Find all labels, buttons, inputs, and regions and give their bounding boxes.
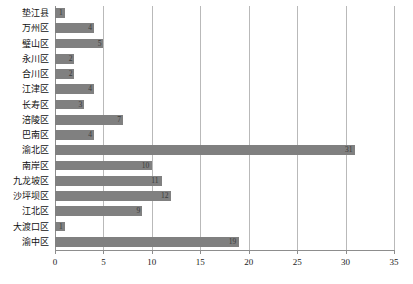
- bar: [55, 176, 162, 186]
- tick-label-30: 30: [341, 256, 350, 268]
- bar-value-label: 9: [137, 205, 141, 216]
- bar: [55, 206, 142, 216]
- category-label: 长寿区: [22, 100, 49, 111]
- category-label-row: 巴南区: [0, 128, 52, 143]
- bar-row: 31: [55, 143, 394, 158]
- bar: [55, 39, 103, 49]
- tick-label-0: 0: [53, 256, 58, 268]
- category-label-row: 大渡口区: [0, 220, 52, 235]
- tick-mark-0: [55, 250, 56, 254]
- category-label: 九龙坡区: [13, 176, 49, 187]
- category-axis-labels: 垫江县万州区璧山区永川区合川区江津区长寿区涪陵区巴南区渝北区南岸区九龙坡区沙坪坝…: [0, 6, 52, 250]
- tick-mark-20: [249, 250, 250, 254]
- category-label: 璧山区: [22, 39, 49, 50]
- tick-mark-15: [200, 250, 201, 254]
- bar-value-label: 11: [151, 175, 158, 186]
- category-label-row: 万州区: [0, 21, 52, 36]
- category-label-row: 江津区: [0, 82, 52, 97]
- tick-mark-5: [103, 250, 104, 254]
- category-label: 江北区: [22, 206, 49, 217]
- gridline-35: [394, 6, 395, 250]
- tick-label-5: 5: [101, 256, 106, 268]
- category-label: 万州区: [22, 23, 49, 34]
- bar-rows: 145224374311011129119: [55, 6, 394, 250]
- tick-label-20: 20: [244, 256, 253, 268]
- bar-row: 19: [55, 235, 394, 250]
- bar: [55, 191, 171, 201]
- category-label: 渝中区: [22, 237, 49, 248]
- category-label-row: 长寿区: [0, 98, 52, 113]
- bar-row: 1: [55, 6, 394, 21]
- category-label: 合川区: [22, 69, 49, 80]
- category-label: 江津区: [22, 84, 49, 95]
- bar-row: 7: [55, 113, 394, 128]
- category-label: 南岸区: [22, 161, 49, 172]
- category-label-row: 九龙坡区: [0, 174, 52, 189]
- bar: [55, 161, 152, 171]
- category-label: 涪陵区: [22, 115, 49, 126]
- bar-value-label: 1: [59, 7, 63, 18]
- bar-value-label: 4: [88, 83, 92, 94]
- bar-value-label: 10: [142, 160, 150, 171]
- bar-value-label: 12: [161, 190, 169, 201]
- tick-mark-30: [346, 250, 347, 254]
- tick-mark-25: [297, 250, 298, 254]
- category-label-row: 渝北区: [0, 143, 52, 158]
- bar-value-label: 2: [69, 53, 73, 64]
- tick-label-10: 10: [147, 256, 156, 268]
- bar: [55, 237, 239, 247]
- bar-value-label: 2: [69, 68, 73, 79]
- tick-mark-10: [152, 250, 153, 254]
- bar-value-label: 3: [78, 99, 82, 110]
- bar: [55, 145, 355, 155]
- tick-label-15: 15: [196, 256, 205, 268]
- bar-row: 3: [55, 98, 394, 113]
- bar-chart: 垫江县万州区璧山区永川区合川区江津区长寿区涪陵区巴南区渝北区南岸区九龙坡区沙坪坝…: [0, 0, 413, 284]
- bar-value-label: 31: [345, 144, 353, 155]
- plot-area: 145224374311011129119: [55, 6, 394, 250]
- category-label-row: 渝中区: [0, 235, 52, 250]
- category-label-row: 合川区: [0, 67, 52, 82]
- category-label-row: 涪陵区: [0, 113, 52, 128]
- bar-row: 10: [55, 159, 394, 174]
- bar-value-label: 7: [117, 114, 121, 125]
- category-label: 永川区: [22, 54, 49, 65]
- bar-row: 11: [55, 174, 394, 189]
- category-label-row: 垫江县: [0, 6, 52, 21]
- category-label: 巴南区: [22, 130, 49, 141]
- bar-row: 12: [55, 189, 394, 204]
- bar-value-label: 5: [98, 38, 102, 49]
- bar-row: 2: [55, 67, 394, 82]
- category-label-row: 江北区: [0, 204, 52, 219]
- bar-row: 9: [55, 204, 394, 219]
- x-axis-ticks: 05101520253035: [55, 250, 395, 278]
- tick-label-35: 35: [390, 256, 399, 268]
- bar-row: 2: [55, 52, 394, 67]
- bar: [55, 115, 123, 125]
- bar-row: 1: [55, 220, 394, 235]
- bar-value-label: 19: [229, 236, 237, 247]
- category-label: 大渡口区: [13, 222, 49, 233]
- tick-mark-35: [394, 250, 395, 254]
- bar-value-label: 1: [59, 221, 63, 232]
- category-label: 垫江县: [22, 8, 49, 19]
- bar-value-label: 4: [88, 129, 92, 140]
- bar-value-label: 4: [88, 22, 92, 33]
- bar-row: 4: [55, 82, 394, 97]
- bar-row: 4: [55, 128, 394, 143]
- bar-row: 4: [55, 21, 394, 36]
- tick-label-25: 25: [293, 256, 302, 268]
- category-label-row: 沙坪坝区: [0, 189, 52, 204]
- category-label: 渝北区: [22, 145, 49, 156]
- category-label-row: 永川区: [0, 52, 52, 67]
- category-label-row: 璧山区: [0, 37, 52, 52]
- bar-row: 5: [55, 37, 394, 52]
- category-label-row: 南岸区: [0, 159, 52, 174]
- category-label: 沙坪坝区: [13, 191, 49, 202]
